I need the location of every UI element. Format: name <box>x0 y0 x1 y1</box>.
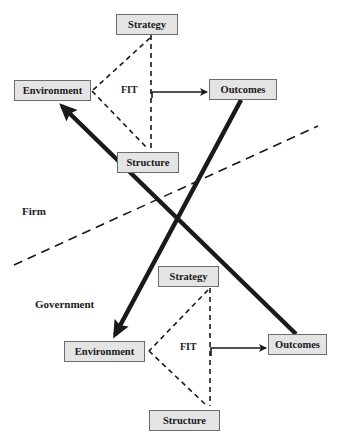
firm-outcomes-label: Outcomes <box>221 84 266 95</box>
firm-strategy-box: Strategy <box>116 14 178 35</box>
firm-structure-box: Structure <box>117 152 179 173</box>
firm-fit-label: FIT <box>121 84 138 95</box>
government-fit-label: FIT <box>180 341 197 352</box>
government-strategy-box: Strategy <box>158 266 219 287</box>
diagram-lines <box>0 0 341 442</box>
firm-strategy-label: Strategy <box>128 19 166 30</box>
government-region-label: Government <box>35 298 94 310</box>
firm-outcomes-box: Outcomes <box>209 79 277 100</box>
firm-outcomes-to-government-environment-arrow <box>115 100 241 335</box>
government-environment-box: Environment <box>64 341 145 362</box>
firm-environment-box: Environment <box>14 80 91 101</box>
government-structure-box: Structure <box>149 410 220 431</box>
government-fit-to-outcomes-arrow <box>211 348 266 356</box>
government-outcomes-label: Outcomes <box>275 339 320 350</box>
government-outcomes-box: Outcomes <box>268 334 327 355</box>
firm-region-label: Firm <box>22 205 46 217</box>
firm-fit-to-outcomes-arrow <box>152 92 207 98</box>
firm-environment-label: Environment <box>23 85 82 96</box>
firm-structure-label: Structure <box>127 157 170 168</box>
government-structure-label: Structure <box>163 415 206 426</box>
government-strategy-label: Strategy <box>170 271 208 282</box>
government-environment-label: Environment <box>75 346 134 357</box>
